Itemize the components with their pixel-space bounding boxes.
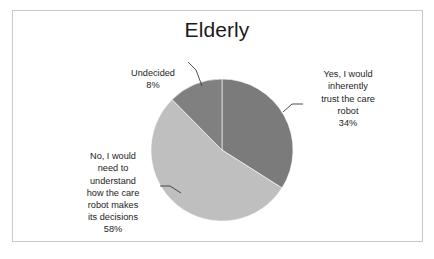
pie-chart-figure: Elderly Yes, I would inherently trust th… [0, 0, 434, 259]
slice-label-yes: Yes, I would inherently trust the care r… [296, 56, 400, 141]
slice-label-yes-text: Yes, I would inherently trust the care r… [321, 69, 375, 116]
slice-label-no: No, I would need to understand how the c… [56, 138, 170, 248]
slice-label-no-percent: 58% [56, 223, 170, 235]
slice-label-no-text: No, I would need to understand how the c… [87, 151, 140, 222]
slice-label-undecided: Undecided 8% [112, 55, 194, 104]
slice-label-yes-percent: 34% [296, 117, 400, 129]
slice-label-undecided-text: Undecided [131, 68, 175, 78]
slice-label-undecided-percent: 8% [112, 79, 194, 91]
